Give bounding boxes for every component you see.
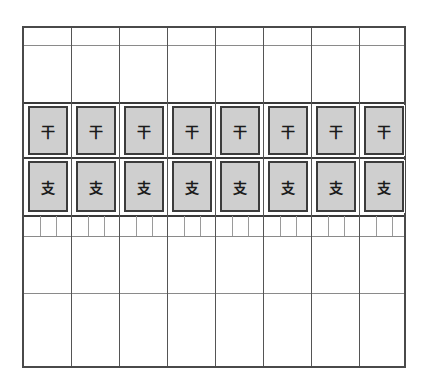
stem-cell: 干 xyxy=(364,106,404,155)
sub-column-divider xyxy=(392,216,393,236)
branch-cell: 支 xyxy=(220,161,260,212)
sub-strip-divider xyxy=(24,236,404,237)
column-divider xyxy=(215,28,216,366)
column-divider xyxy=(71,28,72,366)
stem-glyph: 干 xyxy=(137,121,151,141)
branch-glyph: 支 xyxy=(137,177,151,197)
branch-cell: 支 xyxy=(76,161,116,212)
stem-cell: 干 xyxy=(172,106,212,155)
column-divider xyxy=(167,28,168,366)
row-divider xyxy=(24,157,404,159)
stem-cell: 干 xyxy=(220,106,260,155)
sub-column-divider xyxy=(184,216,185,236)
stem-glyph: 干 xyxy=(185,121,199,141)
branch-glyph: 支 xyxy=(329,177,343,197)
branch-cell: 支 xyxy=(364,161,404,212)
ganzhi-worksheet-grid: 干支干支干支干支干支干支干支干支 xyxy=(22,26,406,368)
branch-row-bottom-border xyxy=(24,215,404,217)
branch-glyph: 支 xyxy=(185,177,199,197)
stem-cell: 干 xyxy=(268,106,308,155)
stem-glyph: 干 xyxy=(41,121,55,141)
branch-cell: 支 xyxy=(172,161,212,212)
column-divider xyxy=(263,28,264,366)
lower-divider xyxy=(24,293,404,294)
branch-glyph: 支 xyxy=(281,177,295,197)
sub-column-divider xyxy=(248,216,249,236)
branch-cell: 支 xyxy=(316,161,356,212)
sub-column-divider xyxy=(56,216,57,236)
sub-column-divider xyxy=(376,216,377,236)
branch-cell: 支 xyxy=(124,161,164,212)
sub-column-divider xyxy=(88,216,89,236)
stem-cell: 干 xyxy=(316,106,356,155)
stem-glyph: 干 xyxy=(233,121,247,141)
stem-cell: 干 xyxy=(28,106,68,155)
sub-column-divider xyxy=(104,216,105,236)
stem-glyph: 干 xyxy=(281,121,295,141)
stem-row-top-border xyxy=(24,102,404,104)
stem-cell: 干 xyxy=(76,106,116,155)
sub-column-divider xyxy=(136,216,137,236)
branch-cell: 支 xyxy=(268,161,308,212)
column-divider xyxy=(119,28,120,366)
branch-cell: 支 xyxy=(28,161,68,212)
header-divider xyxy=(24,45,404,46)
branch-glyph: 支 xyxy=(89,177,103,197)
sub-column-divider xyxy=(40,216,41,236)
stem-glyph: 干 xyxy=(377,121,391,141)
stem-glyph: 干 xyxy=(89,121,103,141)
sub-column-divider xyxy=(280,216,281,236)
column-divider xyxy=(359,28,360,366)
branch-glyph: 支 xyxy=(41,177,55,197)
sub-column-divider xyxy=(296,216,297,236)
branch-glyph: 支 xyxy=(377,177,391,197)
sub-column-divider xyxy=(152,216,153,236)
sub-column-divider xyxy=(232,216,233,236)
branch-glyph: 支 xyxy=(233,177,247,197)
stem-cell: 干 xyxy=(124,106,164,155)
column-divider xyxy=(311,28,312,366)
sub-column-divider xyxy=(200,216,201,236)
sub-column-divider xyxy=(328,216,329,236)
sub-column-divider xyxy=(344,216,345,236)
stem-glyph: 干 xyxy=(329,121,343,141)
